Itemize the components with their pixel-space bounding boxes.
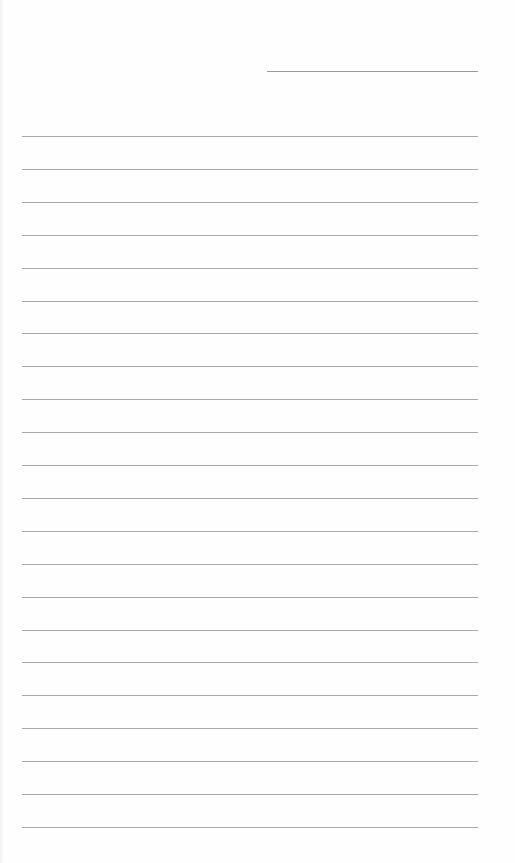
ruled-line xyxy=(22,366,478,367)
ruled-line xyxy=(22,761,478,762)
ruled-line xyxy=(22,465,478,466)
ruled-line xyxy=(22,202,478,203)
ruled-line xyxy=(22,169,478,170)
ruled-line xyxy=(22,136,478,137)
ruled-line xyxy=(22,432,478,433)
lined-paper-page xyxy=(0,0,515,863)
ruled-line xyxy=(22,268,478,269)
ruled-line xyxy=(22,564,478,565)
ruled-line xyxy=(22,333,478,334)
ruled-line xyxy=(22,695,478,696)
date-line xyxy=(267,71,478,72)
ruled-line xyxy=(22,531,478,532)
ruled-line xyxy=(22,728,478,729)
ruled-line xyxy=(22,827,478,828)
ruled-line xyxy=(22,235,478,236)
ruled-line xyxy=(22,662,478,663)
ruled-line xyxy=(22,399,478,400)
page-edge-shadow xyxy=(0,0,4,863)
ruled-line xyxy=(22,794,478,795)
ruled-line xyxy=(22,301,478,302)
ruled-line xyxy=(22,498,478,499)
ruled-line xyxy=(22,597,478,598)
ruled-line xyxy=(22,630,478,631)
